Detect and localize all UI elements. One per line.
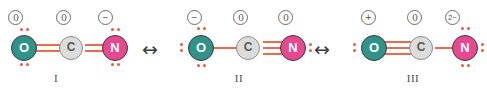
formal-charge-nitrogen: 0 [278, 10, 293, 25]
structure-label: II [228, 72, 250, 84]
resonance-arrow-icon: ↔ [314, 40, 330, 59]
atom-carbon: C [236, 36, 260, 60]
atom-carbon: C [409, 36, 433, 60]
resonance-structure-1: 0 0 − O C N [0, 0, 140, 91]
atom-nitrogen: N [102, 35, 128, 61]
structure-label: I [46, 72, 66, 84]
formal-charge-oxygen: + [361, 10, 376, 25]
formal-charge-nitrogen: 2− [445, 10, 460, 25]
atom-nitrogen: N [280, 35, 306, 61]
formal-charge-nitrogen: − [98, 10, 113, 25]
structure-label: III [400, 72, 426, 84]
formal-charge-oxygen: − [187, 10, 202, 25]
resonance-structure-2: − 0 0 O C N [175, 0, 315, 91]
resonance-arrow-icon: ↔ [142, 40, 158, 59]
atom-nitrogen: N [452, 35, 478, 61]
atom-oxygen: O [11, 35, 37, 61]
atom-oxygen: O [188, 35, 214, 61]
atom-oxygen: O [361, 35, 387, 61]
formal-charge-oxygen: 0 [8, 10, 23, 25]
formal-charge-carbon: 0 [56, 10, 71, 25]
resonance-diagram: 0 0 − O C N [0, 0, 487, 91]
resonance-structure-3: + 0 2− O C N [345, 0, 487, 91]
atom-carbon: C [59, 36, 83, 60]
formal-charge-carbon: 0 [407, 10, 422, 25]
formal-charge-carbon: 0 [233, 10, 248, 25]
